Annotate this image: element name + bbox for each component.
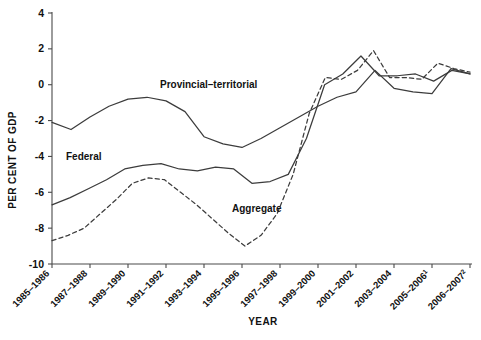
x-axis-title: YEAR (248, 316, 278, 327)
series-line-provincial-territorial (52, 69, 470, 148)
series-annotation-federal: Federal (66, 151, 102, 162)
x-tick-label: 1995–1996 (200, 268, 241, 309)
series-line-federal (52, 56, 470, 205)
y-tick-label: 0 (38, 78, 44, 90)
y-tick-label: -10 (29, 258, 44, 270)
x-tick-group: 1985–19861987–19881989–19901991–19921993… (10, 264, 470, 312)
series-annotation-provincial-territorial: Provincial–territorial (160, 79, 257, 90)
x-axis: 1985–19861987–19881989–19901991–19921993… (10, 264, 472, 312)
x-tick-label: 2005–20061 (387, 267, 431, 311)
x-tick-label: 1987–1988 (48, 268, 89, 309)
y-tick-group: 420-2-4-6-8-10 (29, 7, 52, 270)
y-tick-label: -4 (35, 150, 44, 162)
x-tick-superscript: 2 (459, 267, 467, 275)
y-tick-label: 4 (38, 7, 44, 19)
y-axis: 420-2-4-6-8-10 (29, 7, 52, 270)
y-tick-label: -2 (35, 114, 44, 126)
series-line-aggregate (52, 51, 470, 246)
series-annotations: Provincial–territorialFederalAggregate (66, 79, 282, 214)
x-tick-superscript: 1 (421, 267, 429, 275)
x-tick-label: 1985–1986 (10, 268, 51, 309)
x-tick-label: 1999–2000 (276, 268, 317, 309)
x-tick-label: 2006–20072 (425, 267, 469, 311)
line-chart: 420-2-4-6-8-10 1985–19861987–19881989–19… (0, 0, 481, 340)
x-tick-label: 1991–1992 (124, 268, 165, 309)
x-tick-label: 1989–1990 (86, 268, 127, 309)
chart-container: 420-2-4-6-8-10 1985–19861987–19881989–19… (0, 0, 481, 340)
y-axis-title: PER CENT OF GDP (7, 111, 18, 209)
series-group (52, 51, 470, 246)
y-tick-label: -8 (35, 222, 44, 234)
x-tick-label: 2001–2002 (314, 268, 355, 309)
x-tick-label: 1993–1994 (162, 267, 204, 309)
x-tick-label: 1997–1998 (238, 268, 279, 309)
series-annotation-aggregate: Aggregate (232, 203, 282, 214)
y-tick-label: -6 (35, 186, 44, 198)
y-tick-label: 2 (38, 42, 44, 54)
